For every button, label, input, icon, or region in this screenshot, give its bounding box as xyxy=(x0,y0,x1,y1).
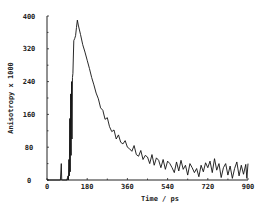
x-tick-label: 900 xyxy=(242,183,255,191)
y-tick-label: 400 xyxy=(23,13,36,21)
y-tick-label: 0 xyxy=(27,177,31,185)
x-axis-title: Time / ps xyxy=(141,195,179,203)
y-tick-label: 160 xyxy=(23,111,36,119)
y-tick-label: 320 xyxy=(23,45,36,53)
x-tick-label: 180 xyxy=(81,183,94,191)
plot-axes: 080160240320400 0180360540720900 xyxy=(23,13,255,192)
x-tick-label: 360 xyxy=(121,183,134,191)
x-tick-label: 0 xyxy=(45,183,49,191)
y-axis-title: Anisotropy x 1000 xyxy=(7,62,15,134)
anisotropy-series-line xyxy=(47,20,248,180)
x-tick-label: 540 xyxy=(161,183,174,191)
x-tick-label: 720 xyxy=(201,183,214,191)
anisotropy-decay-chart: 080160240320400 0180360540720900 Time / … xyxy=(0,0,268,209)
y-axis-ticks: 080160240320400 xyxy=(23,13,49,185)
y-tick-label: 240 xyxy=(23,78,36,86)
y-tick-label: 80 xyxy=(25,144,33,152)
